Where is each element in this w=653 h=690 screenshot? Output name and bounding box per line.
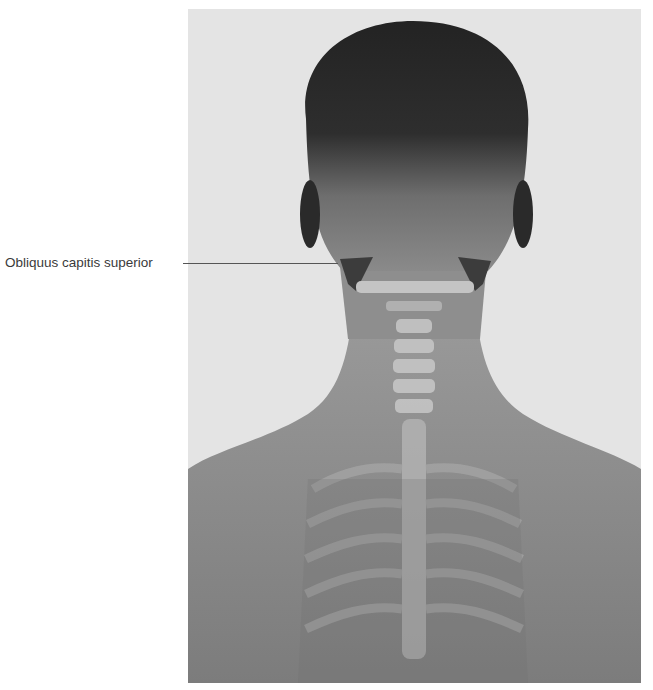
anatomy-illustration — [188, 9, 641, 683]
label-obliquus-capitis-superior: Obliquus capitis superior — [5, 255, 153, 271]
head — [305, 21, 528, 271]
atlas-vertebra — [356, 281, 474, 293]
label-leader-line — [183, 263, 338, 264]
rib-cage-shadow — [298, 479, 528, 683]
left-ear — [300, 180, 320, 248]
right-ear — [513, 180, 533, 248]
anatomy-photo — [188, 9, 641, 683]
